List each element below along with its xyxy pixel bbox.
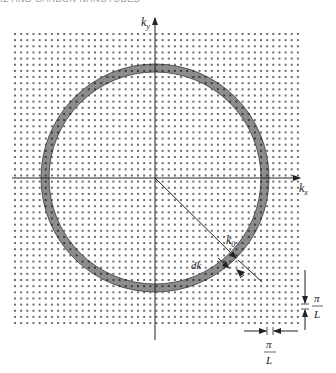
vertical-spacing-denominator: L <box>313 308 320 320</box>
vertical-spacing-indicator: π L <box>301 270 323 330</box>
kx-axis-label: kx <box>299 181 308 197</box>
k0-label: k0 <box>226 233 235 249</box>
ky-axis-label: ky <box>141 15 150 31</box>
k-space-diagram: ky kx k0 dk π L π L <box>0 0 336 373</box>
vertical-spacing-numerator: π <box>314 292 320 304</box>
lattice-point-grid <box>14 33 299 324</box>
horizontal-spacing-indicator: π L <box>244 327 298 366</box>
horizontal-spacing-numerator: π <box>266 338 272 350</box>
dk-label: dk <box>191 259 203 271</box>
horizontal-spacing-denominator: L <box>265 354 272 366</box>
